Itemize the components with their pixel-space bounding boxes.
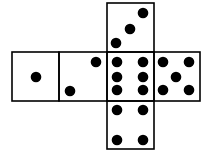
face-bottom [107, 101, 154, 149]
face-left [12, 52, 59, 101]
pip-dot [184, 57, 195, 68]
pip-dot [112, 105, 123, 116]
pip-dot [138, 85, 149, 96]
pip-dot [112, 85, 123, 96]
face-center [107, 52, 154, 101]
pip-dot [138, 135, 149, 146]
pip-dot [111, 38, 122, 49]
pip-dot [31, 72, 42, 83]
face-top [107, 3, 154, 52]
pip-dot [138, 57, 149, 68]
pip-dot [112, 57, 123, 68]
pip-dot [171, 72, 182, 83]
pip-dot [158, 57, 169, 68]
pip-dot [112, 135, 123, 146]
cube-net-diagram [0, 0, 207, 155]
pip-dot [158, 85, 169, 96]
face-right [154, 52, 200, 101]
pip-dot [112, 72, 123, 83]
pip-dot [138, 72, 149, 83]
pip-dot [125, 24, 136, 35]
pip-dot [91, 57, 102, 68]
pip-dot [138, 8, 149, 19]
face-middle-left [59, 52, 107, 101]
pip-dot [65, 86, 76, 97]
pip-dot [184, 85, 195, 96]
pip-dot [138, 105, 149, 116]
